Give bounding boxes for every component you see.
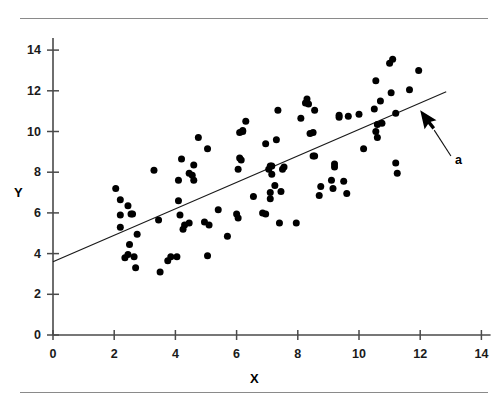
y-tick-label: 4 — [19, 248, 41, 261]
x-tick-label: 2 — [103, 348, 125, 361]
y-tick-label: 2 — [19, 288, 41, 301]
y-tick-label: 14 — [19, 44, 41, 57]
x-tick-label: 0 — [42, 348, 64, 361]
x-tick-label: 6 — [226, 348, 248, 361]
y-tick-label: 0 — [19, 329, 41, 342]
figure-container: 02468101214 02468101214 Y X a — [0, 0, 504, 401]
x-tick-label: 14 — [470, 348, 492, 361]
scatter-points-group — [112, 56, 422, 276]
x-tick-label: 4 — [164, 348, 186, 361]
y-tick-label: 8 — [19, 166, 41, 179]
y-tick-label: 6 — [19, 207, 41, 220]
scatter-plot-canvas — [0, 0, 504, 401]
y-axis-title: Y — [14, 186, 23, 199]
pointer-arrow-icon — [420, 107, 451, 156]
y-tick-label: 12 — [19, 85, 41, 98]
x-tick-label: 10 — [348, 348, 370, 361]
x-tick-label: 12 — [409, 348, 431, 361]
regression-trendline — [53, 92, 446, 262]
x-tick-label: 8 — [287, 348, 309, 361]
y-tick-label: 10 — [19, 126, 41, 139]
annotation-label-a: a — [455, 154, 462, 167]
x-axis-title: X — [250, 372, 259, 385]
